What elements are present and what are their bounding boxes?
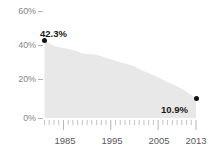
end-value-marker bbox=[194, 96, 199, 101]
area-chart: 60% 40% 20% 0% 1985 1995 2005 2013 42.3%… bbox=[0, 0, 213, 159]
x-axis-label-2013: 2013 bbox=[183, 135, 209, 146]
x-axis-tick-group bbox=[45, 120, 197, 130]
end-value-label: 10.9% bbox=[161, 104, 188, 115]
x-axis-label-2005: 2005 bbox=[146, 135, 172, 146]
x-axis-label-1985: 1985 bbox=[52, 135, 78, 146]
x-axis-label-1995: 1995 bbox=[99, 135, 125, 146]
